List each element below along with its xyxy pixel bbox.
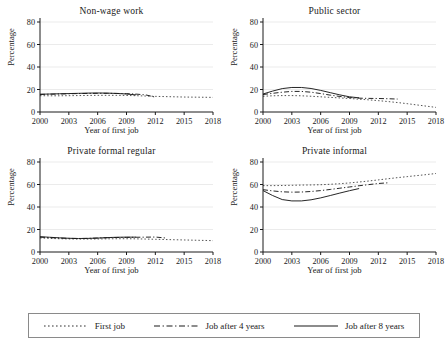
svg-text:20: 20 [250,86,258,95]
svg-text:40: 40 [27,203,35,212]
legend-item-job-after-8-years: Job after 8 years [294,321,404,331]
svg-text:60: 60 [250,181,258,190]
svg-text:0: 0 [254,248,258,257]
svg-text:0: 0 [254,108,258,117]
panel-non-wage-work: Non-wage work Percentage 020406080200020… [0,0,223,140]
panel-private-formal-regular: Private formal regular Percentage 020406… [0,140,223,280]
x-axis-label: Year of first job [223,125,446,135]
svg-text:40: 40 [27,63,35,72]
svg-text:60: 60 [27,181,35,190]
svg-text:40: 40 [250,63,258,72]
plot-area: Percentage 02040608020002003200620092012… [223,0,446,140]
plot-svg: 0204060802000200320062009201220152018 [0,140,223,280]
svg-text:20: 20 [27,226,35,235]
svg-text:20: 20 [250,226,258,235]
plot-svg: 0204060802000200320062009201220152018 [0,0,223,140]
legend-label: First job [95,321,125,331]
svg-text:80: 80 [27,18,35,27]
svg-text:60: 60 [250,41,258,50]
legend-item-first-job: First job [44,321,125,331]
svg-text:60: 60 [27,41,35,50]
x-axis-label: Year of first job [0,125,223,135]
plot-area: Percentage 02040608020002003200620092012… [223,140,446,280]
plot-area: Percentage 02040608020002003200620092012… [0,140,223,280]
legend-swatch-dashdot [154,321,198,331]
plot-area: Percentage 02040608020002003200620092012… [0,0,223,140]
plot-svg: 0204060802000200320062009201220152018 [223,0,446,140]
svg-text:40: 40 [250,203,258,212]
legend-label: Job after 4 years [205,321,264,331]
panel-public-sector: Public sector Percentage 020406080200020… [223,0,446,140]
plot-svg: 0204060802000200320062009201220152018 [223,140,446,280]
svg-text:80: 80 [250,18,258,27]
svg-text:20: 20 [27,86,35,95]
x-axis-label: Year of first job [223,265,446,275]
svg-text:0: 0 [31,108,35,117]
legend-item-job-after-4-years: Job after 4 years [154,321,264,331]
legend-swatch-dotted [44,321,88,331]
svg-text:80: 80 [27,158,35,167]
chart-legend: First job Job after 4 years Job after 8 … [28,313,420,338]
svg-text:80: 80 [250,158,258,167]
legend-swatch-solid [294,321,338,331]
x-axis-label: Year of first job [0,265,223,275]
legend-label: Job after 8 years [345,321,404,331]
panel-private-informal: Private informal Percentage 020406080200… [223,140,446,280]
svg-text:0: 0 [31,248,35,257]
figure-panel-grid: Non-wage work Percentage 020406080200020… [0,0,446,346]
